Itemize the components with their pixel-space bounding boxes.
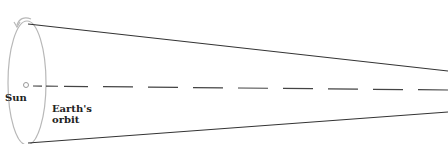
earth-orbit-label-line2: orbit	[52, 114, 92, 125]
earth-orbit-label-line1: Earth's	[52, 103, 92, 114]
axis-dashed-line	[33, 86, 448, 90]
earth-orbit-label: Earth's orbit	[52, 103, 92, 125]
cone-top-line	[28, 24, 448, 71]
sun-label: Sun	[5, 92, 27, 103]
sun-circle	[24, 83, 29, 88]
